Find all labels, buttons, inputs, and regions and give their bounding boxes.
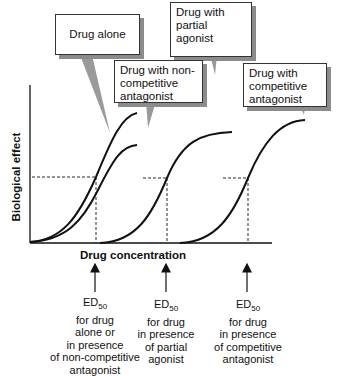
ed50-line: alone or bbox=[45, 326, 145, 339]
ed50-title: ED50 bbox=[206, 298, 290, 316]
ed50-line: for drug bbox=[45, 314, 145, 327]
ed50-title: ED50 bbox=[131, 298, 201, 316]
callout-text: Drug with bbox=[176, 6, 246, 19]
callout-text: partial bbox=[176, 19, 246, 32]
callout-text: antagonist bbox=[249, 93, 321, 106]
arrow-up-icon-1 bbox=[91, 264, 99, 272]
pointer-drug-alone bbox=[80, 55, 110, 133]
ed50-line: for drug bbox=[206, 316, 290, 329]
ed50-line: agonist bbox=[131, 353, 201, 366]
ed50-line: antagonist bbox=[206, 353, 290, 366]
callout-non-competitive: Drug with non- competitive antagonist bbox=[114, 60, 203, 103]
curve-partial-agonist bbox=[100, 132, 232, 243]
ed50-line: in presence bbox=[131, 328, 201, 341]
callout-drug-alone: Drug alone bbox=[55, 14, 140, 55]
callout-partial-agonist: Drug with partial agonist bbox=[170, 2, 252, 57]
callout-competitive: Drug with competitive antagonist bbox=[243, 63, 327, 107]
ed50-title: ED50 bbox=[45, 296, 145, 314]
pointer-non-competitive bbox=[146, 101, 156, 128]
ed50-line: for drug bbox=[131, 316, 201, 329]
arrow-up-icon-3 bbox=[243, 264, 251, 272]
ed50-line: in presence bbox=[206, 328, 290, 341]
ed50-line: in presence bbox=[45, 339, 145, 352]
curve-non-competitive bbox=[30, 145, 137, 242]
ed50-label-3: ED50 for drug in presence of competitive… bbox=[206, 298, 290, 366]
callout-text: Drug with bbox=[249, 67, 321, 80]
ed50-line: of non-competitive bbox=[45, 351, 145, 364]
ed50-label-1: ED50 for drug alone or in presence of no… bbox=[45, 296, 145, 376]
x-axis-label: Drug concentration bbox=[80, 249, 186, 261]
ed50-label-2: ED50 for drug in presence of partial ago… bbox=[131, 298, 201, 366]
ed50-line: of competitive bbox=[206, 341, 290, 354]
y-axis-label: Biological effect bbox=[10, 127, 22, 227]
ed50-line: antagonist bbox=[45, 364, 145, 376]
callout-text: agonist bbox=[176, 32, 246, 45]
callout-text: Drug with non- bbox=[120, 64, 197, 77]
callout-text: competitive bbox=[120, 77, 197, 90]
callout-text: competitive bbox=[249, 80, 321, 93]
curve-drug-alone bbox=[30, 113, 137, 242]
callout-text: antagonist bbox=[120, 90, 197, 103]
ed50-line: of partial bbox=[131, 341, 201, 354]
callout-text: Drug alone bbox=[61, 28, 134, 41]
arrow-up-icon-2 bbox=[162, 264, 170, 272]
